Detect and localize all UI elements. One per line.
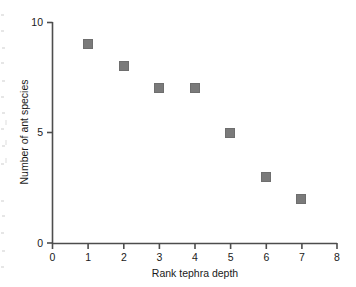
x-axis-title: Rank tephra depth <box>152 267 239 279</box>
data-point-marker <box>119 62 128 71</box>
y-tick-label-10: 10 <box>31 16 43 28</box>
x-tick-label-4: 4 <box>192 251 198 263</box>
x-tick-label-7: 7 <box>299 251 305 263</box>
data-point-marker <box>261 172 270 181</box>
y-tick-label-5: 5 <box>37 126 43 138</box>
x-tick-label-1: 1 <box>85 251 91 263</box>
x-tick-label-3: 3 <box>156 251 162 263</box>
data-point-marker <box>84 40 93 49</box>
x-tick-label-5: 5 <box>228 251 234 263</box>
data-point-marker <box>190 84 199 93</box>
chart-figure: 10 5 0 0 1 2 3 4 5 6 7 8 <box>0 0 356 287</box>
data-point-marker <box>226 128 235 137</box>
y-tick-label-0: 0 <box>37 237 43 249</box>
data-point-marker <box>297 194 306 203</box>
data-point-marker <box>155 84 164 93</box>
x-tick-label-2: 2 <box>121 251 127 263</box>
y-axis-title: Number of ant species <box>18 79 30 184</box>
x-tick-label-8: 8 <box>334 251 340 263</box>
x-tick-label-6: 6 <box>263 251 269 263</box>
x-tick-label-0: 0 <box>50 251 56 263</box>
scatter-plot: 10 5 0 0 1 2 3 4 5 6 7 8 <box>0 0 356 287</box>
